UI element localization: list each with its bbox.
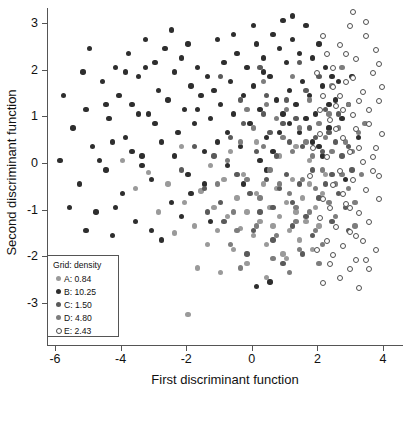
- data-point: [320, 167, 325, 172]
- data-point: [350, 9, 356, 15]
- data-point: [126, 51, 131, 56]
- data-point: [228, 242, 233, 247]
- data-point: [343, 139, 348, 144]
- data-point: [313, 186, 318, 191]
- data-point: [113, 205, 118, 210]
- legend-dot: [56, 315, 61, 320]
- data-point: [327, 117, 333, 123]
- y-tick-label: -1: [27, 203, 38, 217]
- data-point: [340, 107, 346, 113]
- data-point: [106, 116, 111, 121]
- data-point: [366, 121, 372, 127]
- data-point: [336, 191, 341, 196]
- data-point: [277, 186, 282, 191]
- data-point: [293, 102, 298, 107]
- y-axis-label-text: Second discriminant function: [4, 89, 19, 255]
- data-point: [179, 144, 184, 149]
- data-point: [231, 32, 236, 37]
- data-point: [143, 65, 148, 70]
- data-point: [340, 243, 346, 249]
- data-point: [297, 247, 302, 252]
- data-point: [347, 149, 353, 155]
- data-point: [267, 167, 272, 172]
- data-point: [67, 205, 72, 210]
- data-point: [330, 252, 336, 258]
- legend-entry: C: 1.50: [53, 298, 114, 311]
- data-point: [379, 131, 385, 137]
- data-point: [244, 251, 249, 256]
- data-point: [337, 93, 343, 99]
- data-point: [172, 69, 177, 74]
- data-point: [323, 181, 328, 186]
- legend-marker-icon: [53, 289, 64, 294]
- data-point: [247, 191, 252, 196]
- data-point: [356, 98, 362, 104]
- data-point: [238, 226, 243, 231]
- data-point: [208, 163, 213, 168]
- data-point: [211, 205, 216, 210]
- data-point: [310, 153, 315, 158]
- data-point: [133, 219, 138, 224]
- data-point: [274, 233, 279, 238]
- data-point: [277, 130, 282, 135]
- data-point: [290, 149, 295, 154]
- data-point: [316, 41, 321, 46]
- data-point: [264, 275, 269, 280]
- data-point: [231, 209, 236, 214]
- data-point: [116, 93, 121, 98]
- data-point: [353, 233, 359, 239]
- data-point: [93, 209, 98, 214]
- data-point: [349, 149, 354, 154]
- legend-entries: A: 0.84B: 10.25C: 1.50D: 4.80E: 2.43: [53, 272, 114, 337]
- y-tick-mark: [42, 210, 47, 211]
- data-point: [326, 200, 331, 205]
- data-point: [221, 177, 226, 182]
- data-point: [185, 172, 190, 177]
- data-point: [244, 107, 249, 112]
- data-point: [347, 266, 353, 272]
- data-point: [320, 93, 326, 99]
- data-point: [175, 130, 180, 135]
- data-point: [316, 144, 321, 149]
- data-point: [326, 111, 331, 116]
- data-point: [179, 55, 184, 60]
- legend-label: A: 0.84: [64, 274, 91, 284]
- data-point: [274, 97, 279, 102]
- data-point: [225, 158, 230, 163]
- data-point: [211, 153, 216, 158]
- data-point: [366, 219, 372, 225]
- data-point: [303, 116, 308, 121]
- data-point: [133, 186, 138, 191]
- legend: Grid: density A: 0.84B: 10.25C: 1.50D: 4…: [47, 255, 119, 337]
- data-point: [257, 107, 262, 112]
- data-point: [323, 65, 328, 70]
- data-point: [198, 188, 203, 193]
- data-point: [188, 191, 193, 196]
- data-point: [350, 112, 356, 118]
- data-point: [241, 121, 246, 126]
- data-point: [316, 74, 321, 79]
- data-point: [228, 135, 233, 140]
- data-point: [320, 83, 325, 88]
- y-tick-mark: [42, 23, 47, 24]
- data-point: [313, 205, 318, 210]
- data-point: [244, 261, 249, 266]
- data-point: [274, 153, 279, 158]
- x-tick-label: 0: [248, 352, 255, 366]
- data-point: [290, 177, 295, 182]
- data-point: [264, 167, 269, 172]
- data-point: [320, 33, 326, 39]
- data-point: [314, 247, 320, 253]
- data-point: [293, 219, 298, 224]
- data-point: [257, 219, 262, 224]
- data-point: [202, 149, 207, 154]
- x-tick-label: -6: [49, 352, 60, 366]
- data-point: [373, 247, 379, 253]
- data-point: [277, 153, 282, 158]
- data-point: [287, 88, 292, 93]
- legend-title: Grid: density: [53, 260, 114, 270]
- data-point: [340, 191, 346, 197]
- data-point: [303, 214, 308, 219]
- data-point: [156, 209, 161, 214]
- legend-marker-icon: [53, 315, 64, 320]
